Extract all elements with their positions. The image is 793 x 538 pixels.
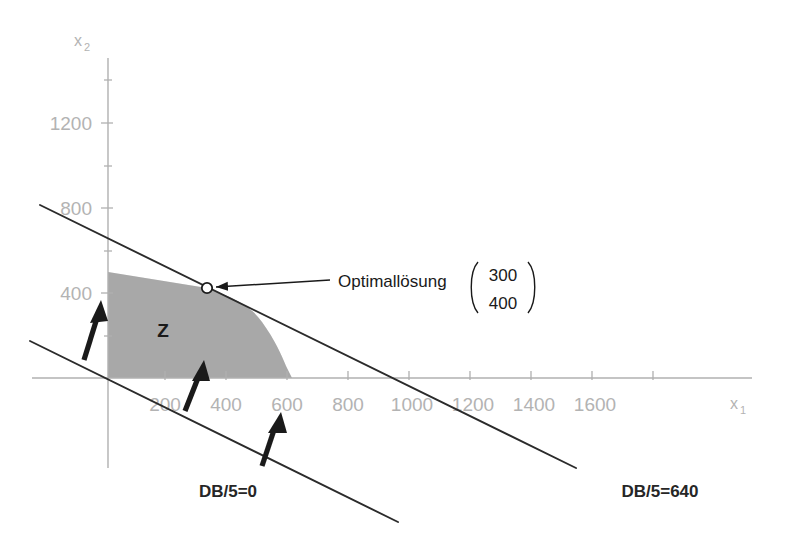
y-axis-label-text: x [74,32,82,49]
isoprofit-640-label: DB/5=640 [621,482,698,501]
optimal-solution-marker[interactable] [202,283,212,293]
x-tick-labels-group: 200 400 600 800 1000 1200 1400 1600 [149,394,616,415]
x-tick-label: 400 [210,394,242,415]
isoprofit-zero-label: DB/5=0 [199,482,257,501]
x-tick-label: 1000 [391,394,433,415]
vector-right-paren [528,262,535,313]
x-tick-label: 600 [271,394,303,415]
optimal-solution-label: Optimallösung [338,272,447,291]
x-tick-label: 800 [332,394,364,415]
optimal-solution-vector: 300 400 [471,262,535,313]
vector-component-x1: 300 [489,266,517,285]
feasible-region-label: Z [157,320,169,341]
vector-left-paren [471,262,478,313]
y-tick-label: 800 [60,198,92,219]
optimal-solution-leader-line [216,280,330,287]
direction-arrow-3 [262,412,287,466]
region-texture-overlay [108,272,292,378]
x-tick-label: 1200 [452,394,494,415]
y-tick-labels-group: 1200 800 400 [50,113,92,304]
x-axis-label: x 1 [730,395,746,416]
x-axis-label-subscript: 1 [740,404,746,416]
vector-component-x2: 400 [489,294,517,313]
x-tick-label: 1400 [513,394,555,415]
y-axis-label: x 2 [74,32,90,53]
lp-graph-svg: 200 400 600 800 1000 1200 1400 1600 1200… [0,0,793,538]
y-tick-label: 400 [60,283,92,304]
y-axis-label-subscript: 2 [84,41,90,53]
direction-arrow-1 [84,300,108,360]
chart-canvas: 200 400 600 800 1000 1200 1400 1600 1200… [0,0,793,538]
y-tick-label: 1200 [50,113,92,134]
x-tick-label: 1600 [574,394,616,415]
x-axis-label-text: x [730,395,738,412]
